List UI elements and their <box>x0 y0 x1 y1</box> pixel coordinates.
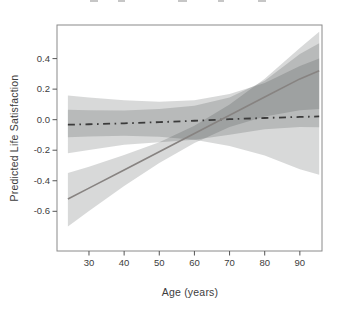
y-tick-label: 0.4 <box>37 53 50 64</box>
x-tick-label: 70 <box>224 257 235 268</box>
y-tick-label: -0.4 <box>34 175 50 186</box>
chart-svg: 304050607080900.40.20.0-0.2-0.4-0.6 <box>0 0 343 309</box>
x-tick-label: 30 <box>84 257 95 268</box>
x-tick-label: 60 <box>189 257 200 268</box>
y-axis-title: Predicted Life Satisfaction <box>8 75 20 202</box>
x-tick-label: 90 <box>295 257 306 268</box>
statistical-plot-figure: 304050607080900.40.20.0-0.2-0.4-0.6 Pred… <box>0 0 343 309</box>
x-tick-label: 40 <box>119 257 130 268</box>
y-tick-label: -0.2 <box>34 144 50 155</box>
y-tick-label: 0.2 <box>37 83 50 94</box>
x-tick-label: 80 <box>259 257 270 268</box>
y-tick-label: -0.6 <box>34 205 50 216</box>
y-tick-label: 0.0 <box>37 114 50 125</box>
x-axis-title: Age (years) <box>162 286 218 298</box>
x-tick-label: 50 <box>154 257 165 268</box>
